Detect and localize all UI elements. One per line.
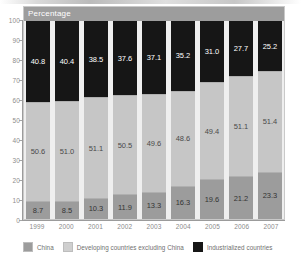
bar-segment-value: 49.4 [205, 127, 220, 136]
x-axis-tick-label: 2002 [113, 223, 137, 235]
legend-label: Industrialized countries [207, 244, 273, 251]
bar-segment-value: 35.2 [176, 51, 191, 60]
bar-segment-value: 37.6 [118, 54, 133, 63]
bar-segment: 50.5 [113, 95, 137, 195]
bar-segment-value: 25.2 [263, 42, 278, 51]
y-axis-tick-mark [19, 60, 22, 61]
bar-segment-value: 40.4 [60, 57, 75, 66]
bar-column: 38.551.110.3 [84, 21, 108, 219]
bar-segment-value: 40.8 [31, 57, 46, 66]
bar-segment: 23.3 [258, 173, 282, 219]
y-axis-tick-mark [19, 120, 22, 121]
bar-segment: 49.6 [142, 94, 166, 192]
bar-segment: 25.2 [258, 21, 282, 71]
legend-item[interactable]: Developing countries excluding China [63, 242, 184, 252]
bar-segment-value: 51.1 [234, 122, 249, 131]
bar-segment-value: 27.7 [234, 44, 249, 53]
bar-segment: 40.4 [55, 21, 79, 101]
legend-label: Developing countries excluding China [77, 244, 184, 251]
bar-segment-value: 48.6 [176, 134, 191, 143]
bar-segment: 8.5 [55, 202, 79, 219]
bar-segment-value: 21.2 [234, 194, 249, 203]
y-axis-tick-mark [19, 160, 22, 161]
y-axis-tick-mark [19, 40, 22, 41]
bar-segment: 11.9 [113, 195, 137, 219]
stacked-bar-chart: 0102030405060708090100 Percentage 40.850… [0, 0, 301, 260]
bar-column: 40.451.08.5 [55, 21, 79, 219]
x-axis-tick-label: 2005 [201, 223, 225, 235]
bar-column: 25.251.423.3 [258, 21, 282, 219]
y-axis-tick-mark [19, 220, 22, 221]
bar-segment: 51.1 [84, 97, 108, 198]
bar-segment-value: 16.3 [176, 198, 191, 207]
bar-segment-value: 49.6 [147, 139, 162, 148]
x-axis-labels: 199920002001200220032004200520062007 [25, 223, 283, 235]
bar-segment: 16.3 [171, 187, 195, 219]
bar-segment-value: 8.5 [62, 206, 72, 215]
bar-segment-value: 11.9 [118, 203, 132, 212]
bar-segment: 37.6 [113, 21, 137, 95]
legend-item[interactable]: China [23, 242, 54, 252]
bar-segment-value: 31.0 [205, 47, 220, 56]
y-axis-tick-mark [19, 100, 22, 101]
bar-segment: 21.2 [229, 177, 253, 219]
bar-segment: 51.4 [258, 71, 282, 173]
bar-column: 27.751.121.2 [229, 21, 253, 219]
bar-segment: 10.3 [84, 199, 108, 219]
bar-column: 31.049.419.6 [200, 21, 224, 219]
plot-header-label: Percentage [24, 7, 284, 21]
bar-column: 35.248.616.3 [171, 21, 195, 219]
bar-segment-value: 19.6 [205, 195, 220, 204]
bar-segment: 49.4 [200, 82, 224, 180]
legend-item[interactable]: Industrialized countries [193, 242, 273, 252]
chart-legend: ChinaDeveloping countries excluding Chin… [23, 240, 285, 254]
bar-segment: 19.6 [200, 180, 224, 219]
bar-segment: 37.1 [142, 21, 166, 94]
bar-segment-value: 13.3 [147, 201, 162, 210]
x-axis-tick-label: 2007 [259, 223, 283, 235]
legend-label: China [37, 244, 54, 251]
bar-segment-value: 51.4 [263, 117, 278, 126]
legend-swatch [193, 242, 203, 252]
legend-swatch [23, 242, 33, 252]
bar-segment-value: 23.3 [263, 191, 278, 200]
x-axis-tick-label: 2000 [54, 223, 78, 235]
y-axis-tick-mark [19, 140, 22, 141]
x-axis-line [22, 220, 285, 221]
bar-segment: 38.5 [84, 21, 108, 97]
x-axis-tick-label: 2003 [142, 223, 166, 235]
bars-container: 40.850.68.740.451.08.538.551.110.337.650… [26, 21, 282, 219]
bar-segment: 51.1 [229, 76, 253, 177]
bar-segment: 40.8 [26, 21, 50, 102]
y-axis-tick-mark [19, 180, 22, 181]
bar-segment-value: 37.1 [147, 53, 162, 62]
bar-segment: 8.7 [26, 202, 50, 219]
bar-segment: 50.6 [26, 102, 50, 202]
bar-segment: 48.6 [171, 91, 195, 187]
legend-swatch [63, 242, 73, 252]
bar-segment-value: 50.6 [31, 147, 46, 156]
bar-column: 37.149.613.3 [142, 21, 166, 219]
bar-column: 40.850.68.7 [26, 21, 50, 219]
y-axis-tick-mark [19, 80, 22, 81]
x-axis-tick-label: 2001 [84, 223, 108, 235]
bar-segment: 31.0 [200, 21, 224, 82]
y-axis-tick-mark [19, 200, 22, 201]
y-axis-tick-mark [19, 20, 22, 21]
bar-segment-value: 51.1 [89, 144, 104, 153]
bar-segment-value: 51.0 [60, 147, 75, 156]
bar-segment: 27.7 [229, 21, 253, 76]
bar-segment-value: 50.5 [118, 141, 133, 150]
bar-column: 37.650.511.9 [113, 21, 137, 219]
x-axis-tick-label: 2004 [171, 223, 195, 235]
bar-segment-value: 38.5 [89, 55, 104, 64]
bar-segment: 35.2 [171, 21, 195, 91]
bar-segment: 13.3 [142, 193, 166, 219]
x-axis-tick-label: 1999 [25, 223, 49, 235]
bar-segment: 51.0 [55, 101, 79, 202]
x-axis-tick-label: 2006 [230, 223, 254, 235]
bar-segment-value: 10.3 [89, 204, 104, 213]
plot-area: Percentage 40.850.68.740.451.08.538.551.… [23, 6, 285, 220]
bar-segment-value: 8.7 [33, 206, 43, 215]
